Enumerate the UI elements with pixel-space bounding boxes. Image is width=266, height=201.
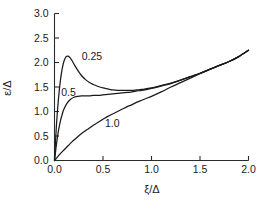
curve-1.0 <box>55 50 249 160</box>
y-tick-label: 2.5 <box>34 32 49 44</box>
curve-label-1.0: 1.0 <box>105 117 120 129</box>
x-tick-label: 1.0 <box>144 163 159 175</box>
y-tick-label: 0.5 <box>34 130 49 142</box>
curve-label-0.25: 0.25 <box>82 50 103 62</box>
x-tick-label: 2.0 <box>241 163 256 175</box>
y-tick-label: 1.0 <box>34 105 49 117</box>
x-tick-label: 0.0 <box>47 163 62 175</box>
x-tick-label: 0.5 <box>96 163 111 175</box>
axes <box>55 14 249 161</box>
y-axis-title: ε/Δ <box>1 80 13 96</box>
y-tick-label: 3.0 <box>34 7 49 19</box>
tick-marks <box>55 14 249 161</box>
curve-0.5 <box>55 50 249 160</box>
y-tick-label: 2.0 <box>34 56 49 68</box>
figure-container: 0.00.51.01.52.02.53.00.00.51.01.52.0 0.2… <box>0 0 266 201</box>
data-curves <box>55 50 249 160</box>
line-chart: 0.00.51.01.52.02.53.00.00.51.01.52.0 0.2… <box>0 0 266 201</box>
curve-0.25 <box>55 50 249 160</box>
x-tick-label: 1.5 <box>193 163 208 175</box>
y-tick-label: 1.5 <box>34 81 49 93</box>
curve-label-0.5: 0.5 <box>61 86 76 98</box>
x-axis-title: ξ/Δ <box>144 183 160 195</box>
